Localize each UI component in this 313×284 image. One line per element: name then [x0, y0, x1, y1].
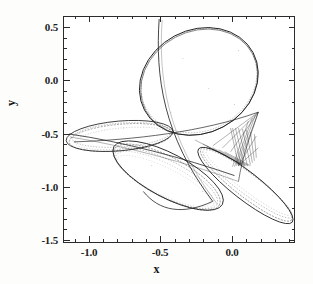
y-right-minor-tick: [292, 176, 295, 177]
y-tick-label: -0.5: [18, 128, 58, 140]
x-top-minor-tick: [275, 16, 276, 19]
y-minor-tick: [63, 112, 67, 113]
y-minor-tick: [63, 59, 67, 60]
figure-container: -1.0 -0.5 0.0 0.5 0.0 -0.5 -1.0 -1.5 x y: [0, 0, 313, 284]
y-minor-tick: [63, 123, 67, 124]
connector-arcs: [69, 19, 258, 210]
y-tick-label: -1.0: [18, 181, 58, 193]
y-tick-label: 0.5: [18, 21, 58, 33]
y-minor-tick: [63, 69, 67, 70]
y-minor-tick: [63, 38, 67, 39]
x-top-major-tick: [89, 16, 90, 22]
x-top-minor-tick: [175, 16, 176, 19]
y-right-major-tick: [289, 80, 295, 81]
x-minor-tick: [218, 239, 219, 243]
attractor-plot: [64, 17, 294, 242]
y-axis-title: y: [4, 83, 19, 123]
y-right-major-tick: [289, 27, 295, 28]
y-right-minor-tick: [292, 208, 295, 209]
y-major-tick: [63, 187, 70, 188]
x-minor-tick: [246, 239, 247, 243]
y-major-tick: [63, 80, 70, 81]
y-minor-tick: [63, 144, 67, 145]
y-minor-tick: [63, 155, 67, 156]
x-minor-tick: [175, 239, 176, 243]
x-major-tick: [160, 236, 161, 243]
x-top-minor-tick: [218, 16, 219, 19]
x-minor-tick: [203, 239, 204, 243]
x-minor-tick: [275, 239, 276, 243]
y-right-minor-tick: [292, 155, 295, 156]
x-top-minor-tick: [189, 16, 190, 19]
upper-lobe: [120, 17, 277, 156]
y-major-tick: [63, 240, 70, 241]
x-minor-tick: [132, 239, 133, 243]
x-top-minor-tick: [261, 16, 262, 19]
y-right-major-tick: [289, 240, 295, 241]
y-major-tick: [63, 134, 70, 135]
y-right-major-tick: [289, 187, 295, 188]
y-major-tick: [63, 27, 70, 28]
x-top-minor-tick: [75, 16, 76, 19]
x-minor-tick: [103, 239, 104, 243]
x-tick-label: -0.5: [152, 246, 169, 258]
x-top-major-tick: [232, 16, 233, 22]
x-minor-tick: [75, 239, 76, 243]
y-minor-tick: [63, 229, 67, 230]
x-top-major-tick: [160, 16, 161, 22]
x-top-minor-tick: [289, 16, 290, 19]
x-top-minor-tick: [246, 16, 247, 19]
x-top-minor-tick: [146, 16, 147, 19]
y-minor-tick: [63, 208, 67, 209]
y-minor-tick: [63, 176, 67, 177]
y-right-major-tick: [289, 134, 295, 135]
x-major-tick: [232, 236, 233, 243]
x-tick-label: 0.0: [225, 246, 238, 258]
x-minor-tick: [261, 239, 262, 243]
x-minor-tick: [117, 239, 118, 243]
y-minor-tick: [63, 198, 67, 199]
x-tick-label: -1.0: [81, 246, 98, 258]
y-minor-tick: [63, 48, 67, 49]
y-minor-tick: [63, 219, 67, 220]
x-top-minor-tick: [117, 16, 118, 19]
plot-frame: [63, 16, 295, 243]
y-minor-tick: [63, 102, 67, 103]
y-minor-tick: [63, 91, 67, 92]
x-minor-tick: [189, 239, 190, 243]
x-major-tick: [89, 236, 90, 243]
x-axis-title: x: [0, 262, 313, 277]
y-tick-label: -1.5: [18, 234, 58, 246]
y-right-minor-tick: [292, 69, 295, 70]
central-fan: [195, 112, 258, 167]
lower-right-lobe: [190, 138, 294, 233]
x-top-minor-tick: [103, 16, 104, 19]
trajectory-speckle: [123, 50, 273, 196]
y-minor-tick: [63, 165, 67, 166]
y-right-minor-tick: [292, 102, 295, 103]
y-tick-label: 0.0: [18, 74, 58, 86]
x-top-minor-tick: [203, 16, 204, 19]
y-right-minor-tick: [292, 229, 295, 230]
x-top-minor-tick: [132, 16, 133, 19]
y-right-minor-tick: [292, 48, 295, 49]
x-minor-tick: [146, 239, 147, 243]
y-right-minor-tick: [292, 123, 295, 124]
